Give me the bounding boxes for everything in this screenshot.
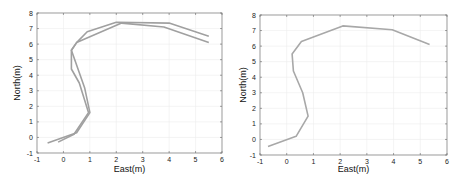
x-tick-label: 4: [392, 158, 396, 165]
y-tick-label: -1: [250, 152, 256, 159]
y-tick-label: 3: [29, 87, 33, 94]
left-plot: -10123456-1012345678East(m)North(m): [0, 0, 230, 183]
series-line-trajectory-1: [48, 22, 209, 143]
series-line-trajectory-2: [58, 23, 209, 142]
y-tick-label: 0: [252, 136, 256, 143]
x-tick-label: 0: [61, 156, 65, 163]
y-tick-label: 8: [29, 10, 33, 17]
x-tick-label: 1: [311, 158, 315, 165]
x-tick-label: 6: [220, 156, 224, 163]
y-tick-label: 1: [29, 118, 33, 125]
y-tick-label: 2: [29, 103, 33, 110]
grid: [37, 13, 222, 153]
axes-frame: [37, 13, 222, 153]
y-tick-label: 7: [252, 27, 256, 34]
x-tick-label: 2: [114, 156, 118, 163]
right-plot: -10123456-1012345678East(m)North(m): [230, 0, 460, 183]
y-axis-label: North(m): [238, 67, 248, 103]
grid: [260, 15, 447, 155]
x-tick-label: 5: [418, 158, 422, 165]
y-tick-label: 0: [29, 134, 33, 141]
y-tick-label: 1: [252, 120, 256, 127]
left-plot-canvas: -10123456-1012345678East(m)North(m): [0, 0, 230, 183]
x-tick-label: 1: [88, 156, 92, 163]
x-tick-label: -1: [34, 156, 40, 163]
x-tick-label: 6: [445, 158, 449, 165]
y-tick-label: 2: [252, 105, 256, 112]
y-tick-label: 4: [29, 72, 33, 79]
y-tick-label: 5: [29, 56, 33, 63]
x-axis-label: East(m): [338, 164, 370, 174]
x-tick-label: 4: [167, 156, 171, 163]
y-tick-label: -1: [27, 150, 33, 157]
right-plot-canvas: -10123456-1012345678East(m)North(m): [230, 0, 461, 183]
series-line-trajectory: [268, 26, 430, 146]
x-tick-label: 5: [194, 156, 198, 163]
y-tick-label: 7: [29, 25, 33, 32]
y-tick-label: 3: [252, 89, 256, 96]
x-axis-label: East(m): [114, 164, 146, 174]
x-tick-label: 3: [141, 156, 145, 163]
y-tick-label: 4: [252, 74, 256, 81]
x-tick-label: -1: [257, 158, 263, 165]
y-axis-label: North(m): [12, 65, 22, 101]
y-tick-label: 6: [252, 43, 256, 50]
y-tick-label: 5: [252, 58, 256, 65]
axes-frame: [260, 15, 447, 155]
y-tick-label: 8: [252, 12, 256, 19]
x-tick-label: 0: [285, 158, 289, 165]
y-tick-label: 6: [29, 41, 33, 48]
